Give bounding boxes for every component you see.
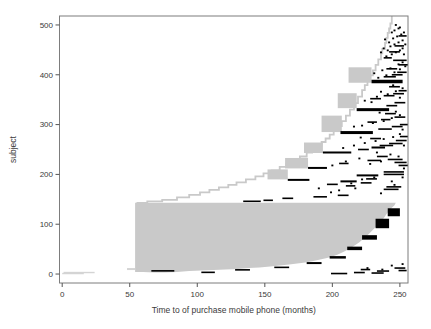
event-bar [201, 272, 215, 274]
event-bar [357, 108, 389, 111]
event-dash [394, 45, 403, 47]
x-tick-label: 0 [60, 290, 65, 299]
event-bar [235, 269, 250, 271]
x-axis-title: Time to of purchase mobile phone (months… [152, 305, 316, 315]
event-history-plot: 0501001502002500100200300400500 Time to … [0, 0, 431, 329]
event-dot [399, 97, 401, 99]
event-dash [370, 98, 381, 100]
event-dash [400, 136, 408, 138]
censored-block [304, 143, 323, 153]
event-dash [392, 126, 403, 128]
event-dot [380, 91, 382, 93]
censored-block [338, 93, 357, 108]
event-dash [394, 116, 405, 118]
x-tick-label: 100 [191, 290, 205, 299]
event-dash [378, 128, 392, 130]
y-tick-label: 500 [40, 21, 54, 30]
event-dot [403, 168, 405, 170]
event-dash [399, 35, 407, 37]
event-bar [376, 219, 390, 228]
event-dash [380, 145, 394, 147]
event-dot [364, 100, 366, 102]
event-dash [338, 195, 349, 197]
event-dash [384, 174, 404, 176]
event-dot [330, 191, 332, 193]
event-dot [402, 87, 404, 89]
event-dot [402, 61, 404, 63]
event-dash [346, 185, 355, 187]
event-dot [360, 137, 362, 139]
event-dash [243, 201, 261, 203]
event-dot [371, 101, 373, 103]
event-dot [354, 187, 356, 189]
event-dot [393, 30, 395, 32]
event-dot [389, 45, 391, 47]
event-dot [376, 152, 378, 154]
event-bar [372, 147, 386, 149]
event-dash [386, 186, 401, 188]
event-dot [398, 156, 400, 158]
event-dash [394, 162, 406, 164]
event-dot [375, 140, 377, 142]
event-dot [383, 138, 385, 140]
event-dash [384, 95, 395, 97]
event-dot [402, 176, 404, 178]
event-dash [397, 71, 406, 73]
event-dash [370, 138, 381, 140]
event-dot [399, 114, 401, 116]
event-dot [402, 129, 404, 131]
event-dot [361, 178, 363, 180]
event-bar [308, 167, 327, 169]
event-dot [393, 43, 395, 45]
event-dot [381, 269, 383, 271]
x-tick-label: 50 [125, 290, 134, 299]
event-dot [389, 154, 391, 156]
censored-block [322, 116, 342, 132]
event-dot [318, 187, 320, 189]
event-dot [395, 111, 397, 113]
event-dot [388, 42, 390, 44]
event-dot [385, 55, 387, 57]
event-dash [327, 184, 338, 186]
event-dash [361, 269, 370, 271]
event-dash [282, 198, 293, 200]
event-dash [339, 163, 348, 165]
event-dash [366, 178, 377, 180]
event-dot [353, 126, 355, 128]
event-dot [404, 65, 406, 67]
event-dot [361, 125, 363, 127]
y-tick-label: 100 [40, 220, 54, 229]
event-dot [358, 158, 360, 160]
event-dot [398, 63, 400, 65]
event-dot [380, 51, 382, 53]
censored-block [268, 169, 288, 179]
event-dash [354, 272, 365, 274]
censored-block [349, 67, 372, 82]
event-dash [384, 57, 392, 59]
event-dot [396, 36, 398, 38]
event-dash [385, 113, 396, 115]
event-dot [391, 53, 393, 55]
event-dot [399, 27, 401, 29]
y-axis-title: subject [8, 135, 18, 163]
event-dot [392, 84, 394, 86]
censored-notch [127, 268, 135, 270]
event-history-figure: 0501001502002500100200300400500 Time to … [0, 0, 431, 329]
event-dot [404, 43, 406, 45]
event-dot [373, 72, 375, 74]
censored-block [285, 158, 308, 168]
event-bar [330, 256, 346, 258]
x-tick-label: 150 [258, 290, 272, 299]
event-bar [288, 179, 310, 181]
event-dot [387, 49, 389, 51]
event-dash [394, 102, 405, 104]
event-bar [340, 180, 356, 182]
event-dash [396, 140, 407, 142]
event-dot [395, 51, 397, 53]
x-tick-label: 200 [326, 290, 340, 299]
event-dot [350, 182, 352, 184]
event-bar [323, 151, 351, 153]
event-dash [331, 273, 347, 275]
event-dot [399, 49, 401, 51]
event-dot [369, 163, 371, 165]
